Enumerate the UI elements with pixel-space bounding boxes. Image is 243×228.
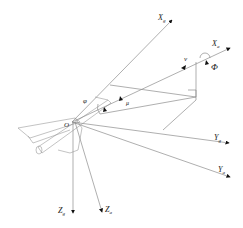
label-mu: μ [126,100,129,106]
axis-ya-line [72,122,230,177]
label-zg: Zg [58,206,65,216]
axis-za-line [75,122,102,212]
label-phi: φ [83,97,87,105]
axis-yg-line [72,122,229,143]
label-xa: Xa [211,39,220,49]
Phi-arrow-icon [205,60,209,65]
Phi-arc [200,53,210,58]
label-origin: O [64,121,69,129]
label-ya: Ya [218,165,225,175]
projection-to-yg [163,100,196,130]
label-Phi: Φ [211,62,218,72]
axis-labels: Xg Xa Yg Ya Zg Za O φ μ Φ v [58,13,225,216]
label-v: v [184,55,188,63]
axis-xg-line [72,20,172,122]
aircraft-axes-diagram: Xg Xa Yg Ya Zg Za O φ μ Φ v [0,0,243,228]
projection-line-mu [100,97,196,114]
axis-xa-line [72,48,230,122]
label-xg: Xg [157,13,166,23]
projection-line-upper [110,85,196,97]
phi-arrow-icon [103,107,107,112]
axis-lines [72,20,230,213]
label-yg: Yg [214,133,221,143]
label-za: Za [105,205,112,215]
